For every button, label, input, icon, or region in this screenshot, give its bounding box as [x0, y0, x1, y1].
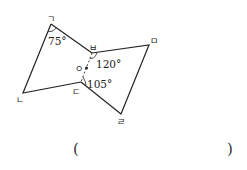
vertex-label-bieup: ㅂ	[89, 43, 97, 53]
angle-label-digeut: 105°	[87, 78, 112, 90]
vertex-label-mieum: ㅁ	[150, 36, 158, 46]
center-point-dot	[85, 67, 88, 70]
vertex-label-rieul: ㄹ	[117, 117, 125, 127]
center-point-label: ㅇ	[75, 64, 83, 74]
vertex-label-giyeok: ㄱ	[47, 14, 55, 24]
answer-open-paren: (	[73, 140, 79, 158]
vertex-label-nieun: ㄴ	[16, 95, 24, 105]
answer-close-paren: )	[227, 140, 233, 158]
point-symmetric-figure: ㄱ ㄴ ㄷ ㄹ ㅁ ㅂ ㅇ 75° 120° 105°	[0, 0, 247, 170]
angle-label-bieup: 120°	[96, 58, 121, 70]
vertex-label-digeut: ㄷ	[72, 87, 80, 97]
angle-label-giyeok: 75°	[48, 35, 67, 47]
